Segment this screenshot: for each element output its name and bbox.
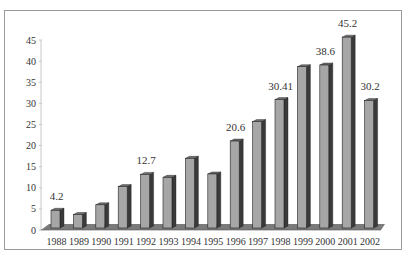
bar-1988 <box>51 210 60 228</box>
y-tick-label: 0 <box>31 225 36 236</box>
bar-1999 <box>297 67 306 228</box>
x-tick-label: 1995 <box>203 236 223 247</box>
data-label: 30.2 <box>360 80 379 92</box>
bar-1995 <box>208 174 217 228</box>
data-label: 45.2 <box>338 17 357 29</box>
y-tick-label: 10 <box>26 182 36 193</box>
data-label: 30.41 <box>268 80 293 92</box>
bar-side <box>60 208 64 228</box>
bar-side <box>329 63 333 228</box>
bar-side <box>217 172 221 228</box>
x-tick-label: 2002 <box>360 236 380 247</box>
x-tick-label: 1989 <box>69 236 89 247</box>
bar-side <box>172 175 176 228</box>
bar-side <box>82 212 86 228</box>
data-label: 38.6 <box>316 45 336 57</box>
bar-1992 <box>141 174 150 228</box>
bar-1991 <box>118 187 127 228</box>
bar-side <box>105 203 109 228</box>
bar-1989 <box>73 214 82 228</box>
bar-chart: 05101520253035404519884.2198919901991199… <box>0 0 407 261</box>
bar-1998 <box>275 100 284 228</box>
x-tick-label: 1997 <box>248 236 268 247</box>
x-tick-label: 1991 <box>114 236 134 247</box>
x-tick-label: 1988 <box>47 236 67 247</box>
bar-2001 <box>342 37 351 228</box>
bar-2002 <box>365 100 374 228</box>
bar-side <box>194 156 198 228</box>
y-tick-label: 45 <box>26 35 36 46</box>
data-label: 12.7 <box>136 154 156 166</box>
x-tick-label: 1992 <box>136 236 156 247</box>
data-label: 20.6 <box>226 121 246 133</box>
bar-side <box>351 35 355 228</box>
y-tick-label: 15 <box>26 161 36 172</box>
y-tick-label: 20 <box>26 140 36 151</box>
bar-side <box>127 185 131 228</box>
bar-side <box>239 139 243 228</box>
data-label: 4.2 <box>50 190 64 202</box>
y-tick-label: 35 <box>26 77 36 88</box>
x-tick-label: 1998 <box>271 236 291 247</box>
y-tick-label: 40 <box>26 56 36 67</box>
bar-side <box>150 172 154 228</box>
x-tick-label: 2000 <box>315 236 335 247</box>
x-tick-label: 1996 <box>226 236 246 247</box>
y-tick-label: 25 <box>26 119 36 130</box>
bar-1997 <box>253 122 262 228</box>
y-tick-label: 5 <box>31 203 36 214</box>
y-tick-label: 30 <box>26 98 36 109</box>
bar-2000 <box>320 65 329 228</box>
bar-side <box>374 98 378 228</box>
x-tick-label: 1999 <box>293 236 313 247</box>
bar-1993 <box>163 177 172 228</box>
bar-side <box>306 65 310 228</box>
x-tick-label: 1993 <box>159 236 179 247</box>
bar-side <box>262 120 266 228</box>
bar-1994 <box>185 158 194 228</box>
bar-1996 <box>230 141 239 228</box>
x-tick-label: 2001 <box>338 236 358 247</box>
x-tick-label: 1994 <box>181 236 201 247</box>
bar-1990 <box>96 205 105 228</box>
bar-side <box>284 98 288 228</box>
x-tick-label: 1990 <box>91 236 111 247</box>
